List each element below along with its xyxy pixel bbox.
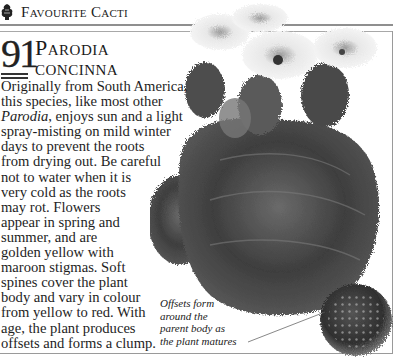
plant-species-title: concinna	[35, 57, 118, 79]
caption-line: Offsets form	[160, 297, 237, 310]
body-line: from drying out. Be careful	[1, 154, 241, 169]
body-line: days to prevent the roots	[1, 139, 241, 154]
cactus-icon	[0, 4, 14, 20]
body-line: Originally from South America,	[1, 79, 241, 94]
caption-line: around the	[160, 310, 237, 323]
caption-line: the plant matures	[160, 335, 237, 348]
body-line: may rot. Flowers	[1, 200, 241, 215]
body-line: very cold as the roots	[1, 185, 241, 200]
body-line: Parodia, enjoys sun and a light	[1, 109, 241, 124]
entry-number: 91	[1, 34, 37, 74]
photo-caption: Offsets form around the parent body as t…	[160, 297, 237, 347]
body-line: appear in spring and	[1, 215, 241, 230]
caption-line: parent body as	[160, 322, 237, 335]
body-line: this species, like most other	[1, 94, 241, 109]
genus-name-italic: Parodia	[1, 108, 48, 124]
body-line: summer, and are	[1, 230, 241, 245]
running-header: Favourite Cacti	[0, 2, 128, 22]
body-line: not to water when it is	[1, 170, 241, 185]
section-title: Favourite Cacti	[21, 4, 128, 21]
body-line: spray-misting on mild winter	[1, 124, 241, 139]
body-line: golden yellow with	[1, 245, 241, 260]
body-line: maroon stigmas. Soft	[1, 260, 241, 275]
body-line: spines cover the plant	[1, 275, 241, 290]
